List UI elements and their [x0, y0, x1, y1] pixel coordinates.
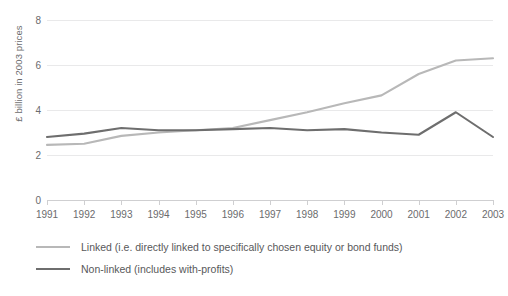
legend-line-swatch-icon — [36, 268, 70, 270]
x-tick-label-2002: 2002 — [445, 209, 467, 220]
x-tick-1994 — [159, 200, 160, 205]
legend-label: Non-linked (includes with-profits) — [81, 263, 233, 275]
chart-legend: Linked (i.e. directly linked to specific… — [36, 236, 496, 280]
y-tick-label-4: 4 — [35, 105, 41, 116]
x-tick-1993 — [121, 200, 122, 205]
x-tick-label-1992: 1992 — [73, 209, 95, 220]
x-tick-1997 — [270, 200, 271, 205]
x-tick-2001 — [419, 200, 420, 205]
legend-item-linked: Linked (i.e. directly linked to specific… — [36, 236, 496, 258]
x-tick-label-1999: 1999 — [333, 209, 355, 220]
series-line-non-linked — [47, 112, 493, 137]
x-tick-label-1998: 1998 — [296, 209, 318, 220]
x-tick-1996 — [233, 200, 234, 205]
legend-label: Linked (i.e. directly linked to specific… — [81, 241, 403, 253]
x-tick-1999 — [344, 200, 345, 205]
y-axis-label: £ billion in 2003 prices — [13, 0, 24, 149]
y-tick-label-2: 2 — [35, 150, 41, 161]
x-tick-1992 — [84, 200, 85, 205]
x-tick-label-1997: 1997 — [259, 209, 281, 220]
x-tick-label-1996: 1996 — [222, 209, 244, 220]
x-tick-1991 — [47, 200, 48, 205]
x-tick-label-1995: 1995 — [185, 209, 207, 220]
x-tick-label-1991: 1991 — [36, 209, 58, 220]
x-tick-2000 — [382, 200, 383, 205]
x-tick-1998 — [307, 200, 308, 205]
x-tick-label-2001: 2001 — [408, 209, 430, 220]
plot-area: 02468 1991199219931994199519961997199819… — [47, 20, 493, 200]
x-tick-1995 — [196, 200, 197, 205]
legend-item-non-linked: Non-linked (includes with-profits) — [36, 258, 496, 280]
x-tick-label-2000: 2000 — [370, 209, 392, 220]
y-tick-label-6: 6 — [35, 60, 41, 71]
series-line-linked — [47, 58, 493, 145]
x-tick-label-2003: 2003 — [482, 209, 504, 220]
x-tick-label-1994: 1994 — [147, 209, 169, 220]
legend-line-swatch-icon — [36, 246, 70, 248]
x-tick-label-1993: 1993 — [110, 209, 132, 220]
y-tick-label-0: 0 — [35, 195, 41, 206]
series-lines — [47, 20, 493, 200]
x-tick-2002 — [456, 200, 457, 205]
y-tick-label-8: 8 — [35, 15, 41, 26]
x-tick-2003 — [493, 200, 494, 205]
chart-figure: £ billion in 2003 prices 02468 199119921… — [0, 0, 508, 296]
